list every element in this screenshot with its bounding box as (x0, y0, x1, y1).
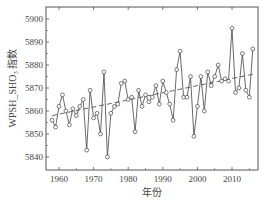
data-point-marker (67, 123, 71, 127)
y-axis-title: WPSH_SHO₃ 指数 (6, 49, 18, 128)
data-point-marker (112, 105, 116, 109)
y-tick-label: 5900 (25, 14, 44, 24)
data-point-marker (92, 116, 96, 120)
y-axis: 5840585058605870588058905900 (25, 14, 49, 162)
data-point-marker (154, 84, 158, 88)
data-point-marker (126, 98, 130, 102)
data-point-marker (209, 84, 213, 88)
x-tick-label: 1960 (50, 174, 69, 184)
data-point-marker (88, 88, 92, 92)
plot-border (46, 7, 258, 170)
data-point-marker (227, 79, 231, 83)
data-point-marker (223, 77, 227, 81)
data-point-marker (220, 79, 224, 83)
x-tick-label: 1990 (154, 174, 173, 184)
plot-frame (46, 7, 258, 170)
line-chart: 5840585058605870588058905900 19601970198… (0, 0, 265, 202)
data-point-marker (168, 102, 172, 106)
data-point-marker (57, 105, 61, 109)
y-tick-label: 5880 (25, 60, 44, 70)
data-point-marker (199, 75, 203, 79)
data-point-marker (54, 125, 58, 129)
data-point-marker (175, 68, 179, 72)
data-point-marker (140, 105, 144, 109)
data-point-marker (71, 107, 75, 111)
data-point-marker (240, 52, 244, 56)
data-point-marker (78, 105, 82, 109)
data-point-marker (192, 134, 196, 138)
data-point-marker (244, 88, 248, 92)
data-point-marker (85, 148, 89, 152)
data-point-marker (81, 98, 85, 102)
data-point-marker (164, 91, 168, 95)
data-point-marker (213, 75, 217, 79)
x-tick-label: 1980 (119, 174, 138, 184)
data-point-marker (151, 95, 155, 99)
data-series (50, 26, 254, 159)
data-point-marker (234, 91, 238, 95)
data-point-marker (50, 118, 54, 122)
data-point-marker (230, 26, 234, 30)
data-point-marker (116, 102, 120, 106)
data-point-marker (185, 95, 189, 99)
x-tick-label: 2010 (223, 174, 242, 184)
data-point-marker (196, 105, 200, 109)
series-line (52, 28, 253, 157)
data-point-marker (99, 132, 103, 136)
data-point-marker (133, 130, 137, 134)
y-tick-label: 5850 (25, 129, 44, 139)
x-tick-label: 1970 (85, 174, 104, 184)
data-point-marker (130, 95, 134, 99)
data-point-marker (178, 49, 182, 53)
y-tick-label: 5840 (25, 152, 44, 162)
data-point-marker (123, 79, 127, 83)
data-point-marker (74, 114, 78, 118)
data-point-marker (137, 88, 141, 92)
data-point-marker (144, 93, 148, 97)
data-point-marker (237, 86, 241, 90)
y-tick-label: 5890 (25, 37, 44, 47)
y-tick-label: 5860 (25, 106, 44, 116)
data-point-marker (61, 93, 65, 97)
data-point-marker (216, 63, 220, 67)
data-point-marker (157, 102, 161, 106)
y-tick-label: 5870 (25, 83, 44, 93)
data-point-marker (171, 118, 175, 122)
data-point-marker (247, 95, 251, 99)
data-point-marker (189, 75, 193, 79)
data-point-marker (109, 111, 113, 115)
data-point-marker (64, 109, 68, 113)
data-point-marker (206, 70, 210, 74)
data-point-marker (161, 79, 165, 83)
data-point-marker (147, 100, 151, 104)
data-point-marker (106, 155, 110, 159)
data-point-marker (95, 111, 99, 115)
data-point-marker (202, 109, 206, 113)
data-point-marker (102, 70, 106, 74)
x-tick-label: 2000 (188, 174, 207, 184)
data-point-marker (251, 47, 255, 51)
data-point-marker (119, 82, 123, 86)
x-axis-title: 年份 (142, 186, 162, 198)
